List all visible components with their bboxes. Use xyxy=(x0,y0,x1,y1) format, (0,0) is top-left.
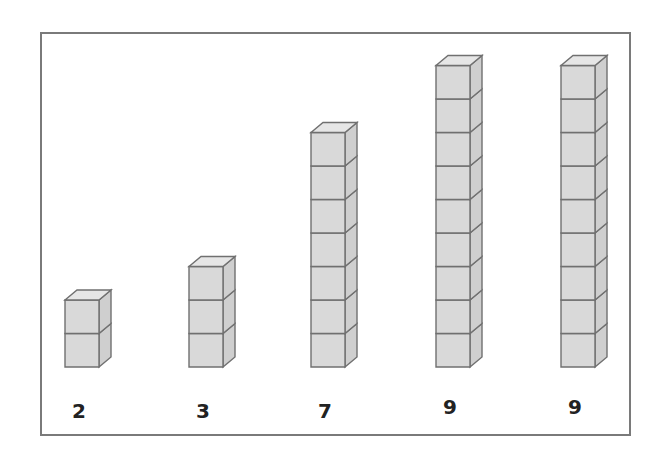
cube-front-face xyxy=(561,200,595,234)
unit-cube xyxy=(65,290,111,334)
cube-front-face xyxy=(311,334,345,368)
cube-front-face xyxy=(311,200,345,234)
cube-front-face xyxy=(311,267,345,301)
cube-front-face xyxy=(436,99,470,133)
cube-front-face xyxy=(65,334,99,368)
cube-front-face xyxy=(436,66,470,100)
cube-front-face xyxy=(561,166,595,200)
tower-count-label: 7 xyxy=(318,399,332,423)
towers-group xyxy=(65,56,607,368)
cube-front-face xyxy=(436,334,470,368)
cube-front-face xyxy=(436,133,470,167)
unit-cube xyxy=(311,123,357,167)
cube-tower xyxy=(65,290,111,367)
tower-count-label: 9 xyxy=(568,395,582,419)
cube-front-face xyxy=(436,300,470,334)
unit-cube xyxy=(189,257,235,301)
unit-cube xyxy=(436,56,482,100)
tower-count-label: 2 xyxy=(72,399,86,423)
tower-count-label: 9 xyxy=(443,395,457,419)
labels-group: 23799 xyxy=(72,395,582,423)
cube-tower xyxy=(189,257,235,368)
cube-tower xyxy=(561,56,607,368)
cube-front-face xyxy=(436,267,470,301)
cube-front-face xyxy=(311,300,345,334)
cube-front-face xyxy=(561,99,595,133)
cube-front-face xyxy=(561,233,595,267)
cube-front-face xyxy=(189,300,223,334)
cube-front-face xyxy=(561,334,595,368)
cube-front-face xyxy=(311,166,345,200)
cube-front-face xyxy=(189,267,223,301)
cube-front-face xyxy=(436,200,470,234)
cube-front-face xyxy=(436,233,470,267)
cube-front-face xyxy=(561,267,595,301)
unit-cube xyxy=(561,56,607,100)
cube-tower xyxy=(311,123,357,368)
cube-towers-figure: 23799 xyxy=(0,0,655,458)
cube-front-face xyxy=(311,233,345,267)
cube-front-face xyxy=(561,133,595,167)
cube-front-face xyxy=(561,66,595,100)
tower-count-label: 3 xyxy=(196,399,210,423)
cube-front-face xyxy=(65,300,99,334)
cube-front-face xyxy=(436,166,470,200)
cube-tower xyxy=(436,56,482,368)
cube-front-face xyxy=(561,300,595,334)
cube-front-face xyxy=(311,133,345,167)
cube-front-face xyxy=(189,334,223,368)
